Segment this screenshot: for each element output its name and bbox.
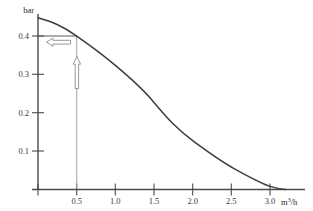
pump-characteristic-chart: 0.4 0.3 0.2 0.1 0.5 1.0 1.5 2.0 2.5 3.0 … [0, 0, 313, 211]
x-tick-label-0.5: 0.5 [71, 196, 82, 206]
pressure-callout-arrow-icon [47, 38, 71, 46]
x-tick-label-2.5: 2.5 [226, 196, 237, 206]
chart-plot-area: 0.4 0.3 0.2 0.1 0.5 1.0 1.5 2.0 2.5 3.0 … [0, 0, 313, 211]
flow-callout-arrow-icon [73, 57, 80, 89]
y-tick-label-0.4: 0.4 [18, 31, 29, 41]
x-axis-unit-label: m3/h [281, 197, 298, 207]
x-tick-label-1.0: 1.0 [110, 196, 121, 206]
y-tick-label-0.1: 0.1 [18, 146, 29, 156]
x-tick-label-1.5: 1.5 [149, 196, 160, 206]
y-axis-unit-label: bar [23, 5, 34, 15]
y-tick-label-0.2: 0.2 [18, 108, 29, 118]
x-tick-label-2.0: 2.0 [187, 196, 198, 206]
pump-curve-path [38, 18, 286, 190]
y-tick-label-0.3: 0.3 [18, 69, 29, 79]
x-axis-unit-suffix: /h [291, 197, 298, 207]
x-tick-label-3.0: 3.0 [265, 196, 276, 206]
